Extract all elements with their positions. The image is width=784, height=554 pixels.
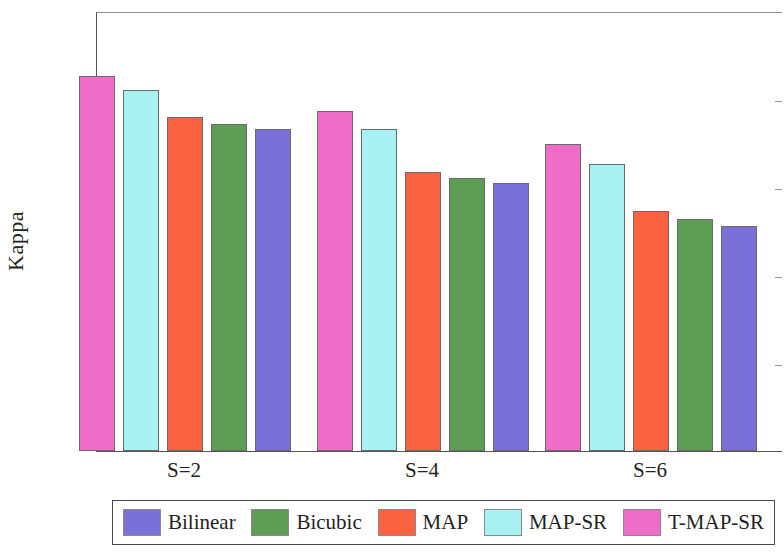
- bar: [721, 226, 757, 451]
- plot-area: [96, 12, 782, 452]
- bar: [79, 76, 115, 451]
- legend-entry: Bicubic: [251, 509, 361, 536]
- legend-label: MAP: [423, 510, 469, 535]
- legend-label: T-MAP-SR: [668, 510, 764, 535]
- y-axis-tick-mark-right: [775, 365, 782, 366]
- bar: [255, 129, 291, 451]
- bar: [589, 164, 625, 451]
- legend-color-swatch: [484, 509, 522, 536]
- bar: [167, 117, 203, 451]
- legend-label: MAP-SR: [529, 510, 607, 535]
- bar: [317, 111, 353, 451]
- legend-entry: T-MAP-SR: [623, 509, 764, 536]
- y-axis-title: Kappa: [3, 181, 29, 301]
- bar: [677, 219, 713, 451]
- legend-entry: Bilinear: [123, 509, 236, 536]
- legend-label: Bilinear: [168, 510, 236, 535]
- y-axis-tick-mark-right: [775, 277, 782, 278]
- x-axis-group-label: S=6: [633, 458, 667, 483]
- bar: [405, 172, 441, 451]
- bar: [361, 129, 397, 451]
- bar-chart-figure: Kappa 00.20.40.60.81 S=2S=4S=6 BilinearB…: [0, 0, 784, 554]
- chart-legend: BilinearBicubicMAPMAP-SRT-MAP-SR: [112, 500, 775, 545]
- y-axis-tick-mark-right: [775, 189, 782, 190]
- bar: [449, 178, 485, 451]
- x-axis-group-label: S=2: [167, 458, 201, 483]
- legend-color-swatch: [378, 509, 416, 536]
- bar: [545, 144, 581, 451]
- legend-color-swatch: [123, 509, 161, 536]
- x-axis-group-label: S=4: [405, 458, 439, 483]
- legend-color-swatch: [251, 509, 289, 536]
- bar: [493, 183, 529, 451]
- y-axis-tick-mark-right: [775, 101, 782, 102]
- legend-color-swatch: [623, 509, 661, 536]
- legend-entry: MAP-SR: [484, 509, 607, 536]
- bar: [633, 211, 669, 451]
- legend-label: Bicubic: [296, 510, 361, 535]
- bar: [123, 90, 159, 451]
- bar: [211, 124, 247, 451]
- legend-entry: MAP: [378, 509, 469, 536]
